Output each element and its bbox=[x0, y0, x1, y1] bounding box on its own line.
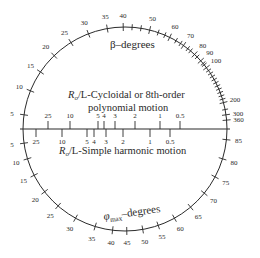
beta-tick-label: 5 bbox=[10, 110, 14, 118]
phi-tick-label: 10 bbox=[12, 159, 20, 167]
scale-tick bbox=[203, 65, 209, 70]
scale-tick bbox=[222, 139, 230, 140]
beta-tick-label: 35 bbox=[102, 13, 110, 21]
phi-tick-label: 75 bbox=[222, 179, 230, 187]
scale-tick bbox=[168, 34, 172, 41]
phi-tick-label: 5 bbox=[10, 141, 14, 149]
beta-tick-label: 15 bbox=[27, 62, 35, 70]
phi-tick-label: 15 bbox=[20, 177, 28, 185]
beta-scale-title: β–degrees bbox=[110, 38, 155, 50]
scale-tick bbox=[175, 38, 178, 43]
scale-tick bbox=[31, 173, 38, 177]
cycloidal-tick-label: 2 bbox=[133, 112, 137, 120]
scale-tick bbox=[69, 39, 73, 46]
beta-tick-label: 200 bbox=[230, 96, 241, 104]
phi-tick-label: 30 bbox=[66, 225, 74, 233]
harmonic-ro-l-ticks: 2510543210.5 bbox=[33, 129, 175, 146]
scale-tick bbox=[37, 70, 44, 74]
phi-tick-label: 50 bbox=[141, 238, 149, 246]
cycloidal-tick-label: 10 bbox=[67, 112, 75, 120]
scale-tick bbox=[206, 69, 211, 72]
scale-tick bbox=[201, 191, 207, 196]
phi-tick-label: 70 bbox=[210, 197, 218, 205]
harmonic-tick-label: 25 bbox=[33, 138, 41, 146]
scale-tick bbox=[222, 114, 230, 115]
scale-tick bbox=[223, 120, 231, 121]
scale-tick bbox=[20, 114, 28, 115]
beta-tick-label: 70 bbox=[187, 32, 195, 40]
scale-tick bbox=[179, 41, 182, 46]
nomogram-diagram: 5101520253035405060708090100200300360 51… bbox=[0, 0, 260, 258]
phi-tick-label: 35 bbox=[88, 235, 96, 243]
scale-tick bbox=[74, 215, 78, 222]
phi-tick-label: 55 bbox=[159, 233, 167, 241]
phi-tick-label: 20 bbox=[32, 196, 40, 204]
scale-tick bbox=[41, 189, 47, 194]
scale-tick bbox=[212, 175, 219, 179]
cycloidal-tick-label: 5 bbox=[96, 112, 100, 120]
scale-tick bbox=[173, 215, 177, 222]
beta-tick-label: 100 bbox=[211, 57, 222, 65]
cycloidal-label-line1: Ro/L-Cycloidal or 8th-order bbox=[67, 89, 185, 102]
phi-tick-label: 45 bbox=[123, 239, 131, 247]
cycloidal-label-line2: polynomial motion bbox=[88, 102, 169, 113]
beta-tick-label: 20 bbox=[42, 43, 50, 51]
scale-tick bbox=[210, 75, 215, 78]
scale-tick bbox=[140, 25, 141, 31]
beta-tick-label: 25 bbox=[61, 29, 69, 37]
harmonic-label: Ro/L-Simple harmonic motion bbox=[58, 145, 187, 158]
cycloidal-tick-label: 25 bbox=[45, 112, 53, 120]
cycloidal-tick-label: 4 bbox=[102, 112, 106, 120]
phi-tick-label: 85 bbox=[235, 137, 243, 145]
scale-tick bbox=[222, 109, 228, 110]
scale-tick bbox=[208, 72, 213, 75]
beta-tick-label: 360 bbox=[233, 116, 244, 124]
phi-tick-label: 60 bbox=[177, 225, 185, 233]
cycloidal-tick-label: 3 bbox=[113, 112, 117, 120]
scale-tick bbox=[20, 143, 28, 144]
cycloidal-ro-l-ticks: 2510543210.5 bbox=[45, 112, 185, 129]
cycloidal-tick-label: 1 bbox=[158, 112, 162, 120]
beta-tick-label: 30 bbox=[81, 19, 89, 27]
beta-tick-label: 10 bbox=[16, 83, 24, 91]
phi-tick-label: 40 bbox=[108, 239, 116, 247]
scale-tick bbox=[181, 42, 186, 49]
scale-tick bbox=[112, 226, 113, 234]
phi-tick-label: 80 bbox=[231, 159, 239, 167]
phi-tick-label: 25 bbox=[47, 212, 55, 220]
beta-tick-label: 40 bbox=[120, 12, 128, 20]
cycloidal-tick-label: 0.5 bbox=[176, 112, 185, 120]
beta-tick-label: 50 bbox=[149, 15, 157, 23]
phi-scale-title: φmax–degrees bbox=[103, 202, 162, 225]
beta-tick-label: 60 bbox=[171, 23, 179, 31]
phi-tick-label: 65 bbox=[195, 213, 203, 221]
